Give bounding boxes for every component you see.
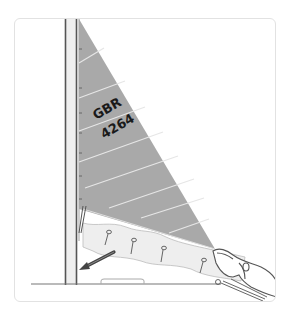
hatch bbox=[101, 279, 144, 284]
mast bbox=[65, 19, 79, 285]
mainsail: GBR 4264 bbox=[79, 19, 215, 249]
illustration-card: GBR 4264 bbox=[14, 18, 276, 302]
reefing-illustration: GBR 4264 bbox=[15, 19, 276, 302]
arrow-down-left-icon bbox=[79, 252, 114, 270]
